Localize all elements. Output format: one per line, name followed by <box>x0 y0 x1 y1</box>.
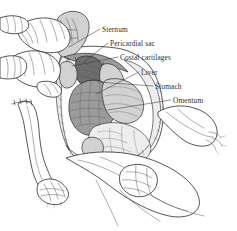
label-costal-cartilages: Costal cartilages <box>120 53 171 62</box>
label-liver: Liver <box>141 68 158 77</box>
paw-lower-left <box>37 179 69 205</box>
paw-right-claws <box>216 136 226 154</box>
limb-right <box>158 106 226 154</box>
limb-right-outline <box>158 106 217 146</box>
limb-lower-right <box>66 152 204 226</box>
label-stomach: Stomach <box>155 82 182 91</box>
anatomical-figure: Sternum Pericardial sac Costal cartilage… <box>0 0 237 231</box>
label-omentum: Omentum <box>173 96 203 105</box>
hand-mid-left <box>0 51 61 97</box>
label-sternum: Sternum <box>102 25 128 34</box>
limb-lower-left-outline <box>18 101 54 189</box>
hand-upper-left-sleeve <box>0 16 29 34</box>
dissection-illustration: Sternum Pericardial sac Costal cartilage… <box>0 0 237 231</box>
label-pericardial-sac: Pericardial sac <box>110 39 156 48</box>
hand-upper-left <box>0 16 70 53</box>
body-cavity <box>55 11 164 169</box>
